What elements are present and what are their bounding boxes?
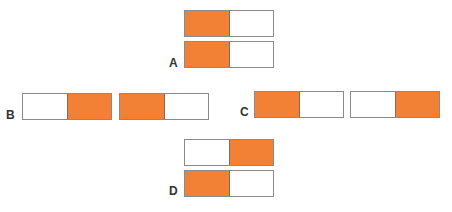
cell-filled bbox=[395, 92, 440, 117]
cell-filled bbox=[229, 140, 274, 165]
cell-empty bbox=[164, 94, 209, 119]
cell-empty bbox=[185, 140, 229, 165]
label-a: A bbox=[169, 56, 178, 70]
label-d: D bbox=[169, 184, 178, 198]
cell-empty bbox=[229, 171, 274, 196]
bar-d2 bbox=[184, 170, 274, 197]
cell-filled bbox=[67, 94, 112, 119]
bar-c1 bbox=[254, 91, 344, 118]
cell-filled bbox=[255, 92, 299, 117]
bar-a1 bbox=[184, 10, 274, 37]
label-c: C bbox=[240, 105, 249, 119]
bar-b2 bbox=[119, 93, 209, 120]
cell-filled bbox=[185, 11, 229, 36]
label-b: B bbox=[6, 108, 15, 122]
bar-b1 bbox=[22, 93, 112, 120]
cell-empty bbox=[299, 92, 344, 117]
cell-filled bbox=[120, 94, 164, 119]
cell-empty bbox=[351, 92, 395, 117]
bar-a2 bbox=[184, 41, 274, 68]
cell-empty bbox=[229, 11, 274, 36]
cell-filled bbox=[185, 171, 229, 196]
bar-d1 bbox=[184, 139, 274, 166]
bar-c2 bbox=[350, 91, 440, 118]
cell-empty bbox=[229, 42, 274, 67]
cell-empty bbox=[23, 94, 67, 119]
cell-filled bbox=[185, 42, 229, 67]
